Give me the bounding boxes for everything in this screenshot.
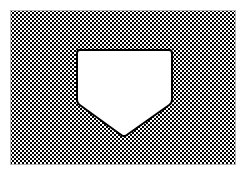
figure-canvas: Hatched rectangular region with pentagon… <box>0 0 246 174</box>
figure-svg: Hatched rectangular region with pentagon… <box>0 0 246 174</box>
